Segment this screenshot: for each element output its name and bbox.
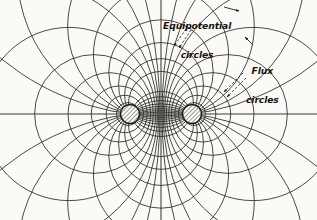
left-conductor: [121, 105, 140, 124]
equipotential-circles-group: [0, 0, 317, 220]
figure-root: Equipotential circles Flux circles: [0, 0, 317, 220]
right-conductor: [183, 105, 202, 124]
field-map-canvas: [0, 0, 317, 220]
